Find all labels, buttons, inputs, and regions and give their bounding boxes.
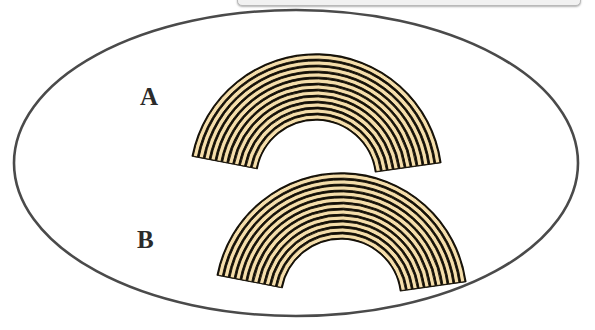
figure-graphic (0, 0, 595, 330)
figure-label-b: B (137, 227, 154, 252)
figure-label-a: A (140, 84, 158, 109)
figure-canvas: A B (0, 0, 595, 330)
